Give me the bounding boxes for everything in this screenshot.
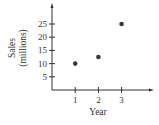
data-point	[96, 55, 101, 60]
y-axis-title-line-1: Sales	[7, 38, 17, 58]
y-axis-arrow-icon	[51, 3, 54, 8]
y-tick-label: 20	[38, 32, 48, 42]
x-axis-title: Year	[89, 107, 107, 117]
y-tick-label: 10	[38, 59, 48, 69]
data-points	[73, 22, 124, 66]
y-tick-label: 25	[38, 19, 48, 29]
x-tick-label: 2	[96, 95, 101, 105]
y-tick-label: 15	[38, 45, 48, 55]
y-axis-title-line-2: (millions)	[18, 29, 29, 66]
x-tick-label: 1	[73, 95, 78, 105]
y-tick-label: 5	[43, 72, 48, 82]
x-axis-arrow-icon	[149, 89, 154, 92]
x-tick-label: 3	[119, 95, 124, 105]
x-axis	[52, 89, 154, 92]
data-point	[73, 61, 78, 66]
scatter-chart: 510152025 123 Sales (millions) Year	[0, 0, 159, 125]
data-point	[119, 22, 124, 27]
